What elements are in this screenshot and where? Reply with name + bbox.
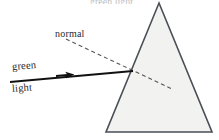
normal-label: normal xyxy=(55,29,85,39)
diagram-canvas: green light prism normal green light xyxy=(0,0,219,140)
ray-direction-arrow-icon xyxy=(56,75,70,76)
incident-light-ray xyxy=(10,71,133,82)
green-label: green xyxy=(12,60,37,72)
triangular-prism xyxy=(106,3,212,132)
light-label: light xyxy=(12,82,33,94)
